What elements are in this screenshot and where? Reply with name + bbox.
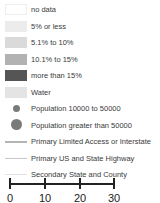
legend-label: Population greater than 50000 — [31, 120, 132, 132]
legend-label: 10.1% to 15% — [31, 54, 78, 66]
scale-bar-line — [9, 183, 114, 185]
legend-item-5-to-10: 5.1% to 10% — [0, 36, 160, 50]
legend-label: Primary Limited Access or Interstate — [31, 136, 151, 148]
legend-item-population-small: Population 10000 to 50000 — [0, 102, 160, 116]
legend-label: Primary US and State Highway — [31, 153, 134, 165]
legend-label: Population 10000 to 50000 — [31, 103, 121, 115]
more-than-15-swatch-icon — [5, 70, 27, 81]
legend-label: no data — [31, 4, 56, 16]
scale-label-20: 20 — [74, 192, 86, 203]
scale-tick-20 — [79, 178, 81, 189]
legend-item-more-than-15: more than 15% — [0, 69, 160, 83]
scale-label-30: 30 — [108, 192, 120, 203]
legend-item-interstate: Primary Limited Access or Interstate — [0, 135, 160, 149]
scale-tick-0 — [9, 178, 11, 189]
legend-label: 5% or less — [31, 21, 66, 33]
legend-item-10-to-15: 10.1% to 15% — [0, 53, 160, 67]
highway-line-icon — [5, 158, 27, 159]
scale-bar: 0 10 20 30 — [0, 178, 160, 203]
large-city-dot-icon — [11, 119, 22, 130]
interstate-line-icon — [5, 141, 27, 143]
5-to-10-swatch-icon — [5, 37, 27, 48]
secondary-road-line-icon — [5, 174, 27, 175]
legend-label: 5.1% to 10% — [31, 37, 74, 49]
5-or-less-swatch-icon — [5, 21, 27, 32]
small-city-dot-icon — [13, 105, 20, 112]
no-data-swatch-icon — [5, 4, 27, 15]
legend-item-population-large: Population greater than 50000 — [0, 119, 160, 133]
legend-label: more than 15% — [31, 70, 82, 82]
scale-tick-10 — [44, 178, 46, 189]
legend-item-5-or-less: 5% or less — [0, 20, 160, 34]
legend-label: Water — [31, 87, 51, 99]
water-swatch-icon — [5, 87, 27, 98]
10-to-15-swatch-icon — [5, 54, 27, 65]
map-legend: no data 5% or less 5.1% to 10% 10.1% to … — [0, 0, 160, 203]
legend-item-us-state-highway: Primary US and State Highway — [0, 152, 160, 166]
scale-label-10: 10 — [39, 192, 51, 203]
scale-tick-30 — [113, 178, 115, 189]
legend-item-no-data: no data — [0, 3, 160, 17]
legend-item-water: Water — [0, 86, 160, 100]
scale-label-0: 0 — [7, 192, 13, 203]
